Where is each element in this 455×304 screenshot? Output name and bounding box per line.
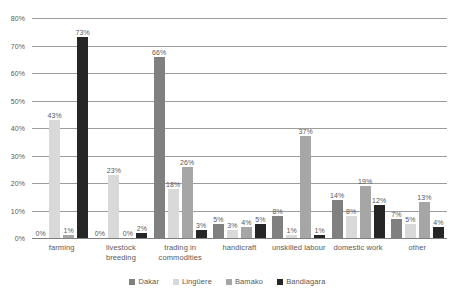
legend-item[interactable]: Bamako bbox=[226, 277, 263, 286]
bar[interactable] bbox=[405, 224, 416, 238]
bar[interactable] bbox=[213, 224, 224, 238]
bar-value-label: 8% bbox=[273, 208, 283, 215]
bar[interactable] bbox=[346, 216, 357, 238]
bar-value-label: 43% bbox=[47, 112, 61, 119]
bar-value-label: 5% bbox=[405, 216, 415, 223]
bar-value-label: 1% bbox=[63, 227, 73, 234]
bar[interactable] bbox=[108, 175, 119, 238]
bar-slot: 18% bbox=[168, 18, 179, 238]
x-axis-category-label: other bbox=[388, 243, 447, 263]
bar-slot: 43% bbox=[49, 18, 60, 238]
legend-swatch-icon bbox=[277, 279, 283, 285]
x-axis-category-label: farming bbox=[32, 243, 91, 263]
bar[interactable] bbox=[49, 120, 60, 238]
bar-slot: 1% bbox=[314, 18, 325, 238]
bar[interactable] bbox=[360, 186, 371, 238]
bar-slot: 26% bbox=[182, 18, 193, 238]
bar-slot: 73% bbox=[77, 18, 88, 238]
bar[interactable] bbox=[374, 205, 385, 238]
y-axis-tick: 80% bbox=[11, 15, 25, 22]
legend-item[interactable]: Bandiagara bbox=[277, 277, 325, 286]
bar-slot: 12% bbox=[374, 18, 385, 238]
y-axis-tick: 10% bbox=[11, 207, 25, 214]
bar-slot: 3% bbox=[196, 18, 207, 238]
legend-swatch-icon bbox=[173, 279, 179, 285]
bar[interactable] bbox=[196, 230, 207, 238]
bar-chart: 80%70%60%50%40%30%20%10%0% 0%43%1%73%0%2… bbox=[0, 0, 455, 304]
bar[interactable] bbox=[77, 37, 88, 238]
bar-slot: 23% bbox=[108, 18, 119, 238]
bar-slot: 5% bbox=[213, 18, 224, 238]
bar[interactable] bbox=[255, 224, 266, 238]
bar[interactable] bbox=[332, 200, 343, 239]
bar-value-label: 5% bbox=[255, 216, 265, 223]
bar-value-label: 4% bbox=[241, 219, 251, 226]
bar-value-label: 1% bbox=[315, 227, 325, 234]
y-axis-tick: 20% bbox=[11, 180, 25, 187]
chart-legend: DakarLingüereBamakoBandiagara bbox=[0, 277, 455, 286]
bar[interactable] bbox=[286, 235, 297, 238]
bar-value-label: 0% bbox=[123, 230, 133, 237]
bar[interactable] bbox=[300, 136, 311, 238]
bar-slot: 1% bbox=[286, 18, 297, 238]
x-axis-category-line: livestock bbox=[91, 243, 150, 253]
bar-value-label: 18% bbox=[166, 181, 180, 188]
legend-label: Bamako bbox=[235, 277, 263, 286]
x-axis-category-label: handicraft bbox=[210, 243, 269, 263]
bar-value-label: 0% bbox=[95, 230, 105, 237]
bar[interactable] bbox=[63, 235, 74, 238]
y-axis-tick: 30% bbox=[11, 152, 25, 159]
bar-group: 66%18%26%3% bbox=[151, 18, 210, 238]
x-axis-labels: farminglivestockbreedingtrading incommod… bbox=[32, 243, 447, 263]
bar-slot: 7% bbox=[391, 18, 402, 238]
bar-value-label: 37% bbox=[299, 128, 313, 135]
bar[interactable] bbox=[182, 167, 193, 239]
bar-slot: 13% bbox=[419, 18, 430, 238]
bar-slot: 1% bbox=[63, 18, 74, 238]
bar-slot: 4% bbox=[241, 18, 252, 238]
bar[interactable] bbox=[314, 235, 325, 238]
bar[interactable] bbox=[419, 202, 430, 238]
bar[interactable] bbox=[154, 57, 165, 239]
y-axis-labels: 80%70%60%50%40%30%20%10%0% bbox=[0, 18, 28, 238]
bar[interactable] bbox=[272, 216, 283, 238]
y-axis-tick: 0% bbox=[15, 235, 25, 242]
bar-slot: 14% bbox=[332, 18, 343, 238]
bar-slot: 19% bbox=[360, 18, 371, 238]
x-axis-category-label: domestic work bbox=[328, 243, 387, 263]
x-axis-category-line: domestic work bbox=[328, 243, 387, 253]
x-axis-category-line: handicraft bbox=[210, 243, 269, 253]
legend-label: Dakar bbox=[138, 277, 159, 286]
bar-value-label: 26% bbox=[180, 159, 194, 166]
x-axis-category-line: unskilled labour bbox=[269, 243, 328, 253]
bar[interactable] bbox=[168, 189, 179, 239]
bar-group: 14%8%19%12% bbox=[328, 18, 387, 238]
bar[interactable] bbox=[433, 227, 444, 238]
bar-value-label: 8% bbox=[346, 208, 356, 215]
bar-slot: 5% bbox=[405, 18, 416, 238]
bar[interactable] bbox=[391, 219, 402, 238]
bar-slot: 4% bbox=[433, 18, 444, 238]
legend-item[interactable]: Dakar bbox=[129, 277, 159, 286]
bar-value-label: 7% bbox=[391, 211, 401, 218]
bar[interactable] bbox=[136, 233, 147, 239]
bar-value-label: 12% bbox=[372, 197, 386, 204]
x-axis-category-label: livestockbreeding bbox=[91, 243, 150, 263]
legend-item[interactable]: Lingüere bbox=[173, 277, 212, 286]
bar[interactable] bbox=[241, 227, 252, 238]
legend-swatch-icon bbox=[226, 279, 232, 285]
bar-value-label: 73% bbox=[75, 29, 89, 36]
bar-value-label: 23% bbox=[107, 167, 121, 174]
bar-slot: 0% bbox=[94, 18, 105, 238]
legend-label: Lingüere bbox=[182, 277, 212, 286]
bar-value-label: 19% bbox=[358, 178, 372, 185]
bar-group: 7%5%13%4% bbox=[388, 18, 447, 238]
y-axis-tick: 50% bbox=[11, 97, 25, 104]
x-axis-category-line: trading in bbox=[151, 243, 210, 253]
y-axis-tick: 60% bbox=[11, 70, 25, 77]
bar-group: 5%3%4%5% bbox=[210, 18, 269, 238]
bar-slot: 2% bbox=[136, 18, 147, 238]
bar-value-label: 1% bbox=[287, 227, 297, 234]
bar[interactable] bbox=[227, 230, 238, 238]
y-axis-tick: 70% bbox=[11, 42, 25, 49]
